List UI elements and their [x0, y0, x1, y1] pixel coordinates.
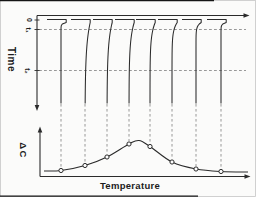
delta-c-axis-arrow [38, 127, 43, 133]
data-point-marker [83, 163, 87, 167]
delta-c-bell-curve [44, 140, 248, 172]
schematic-plot-canvas [0, 0, 256, 197]
relaxation-trace [182, 20, 201, 104]
figure-panel: Time 0 t₁ t₂ ΔC Temperature [0, 0, 256, 197]
data-point-marker [59, 168, 63, 172]
relaxation-trace [47, 20, 66, 104]
data-point-marker [148, 144, 152, 148]
tick-label-t2: t₂ [22, 62, 32, 80]
tick-label-t1: t₁ [23, 21, 33, 39]
time-axis-arrow [35, 105, 40, 111]
delta-c-axis-label: ΔC [16, 134, 29, 168]
data-point-marker [170, 160, 174, 164]
data-point-marker [127, 142, 131, 146]
data-point-marker [219, 169, 223, 173]
data-point-marker [194, 167, 198, 171]
data-point-marker [105, 155, 109, 159]
time-axis-label: Time [4, 37, 17, 81]
top-axis-arrow [244, 13, 250, 18]
relaxation-trace [136, 20, 155, 104]
relaxation-trace [115, 20, 134, 104]
relaxation-trace [158, 20, 177, 104]
relaxation-trace [93, 20, 112, 104]
relaxation-trace [71, 20, 90, 104]
temperature-axis-arrow [245, 174, 251, 179]
relaxation-trace [207, 20, 226, 104]
temperature-axis-label: Temperature [60, 180, 200, 192]
